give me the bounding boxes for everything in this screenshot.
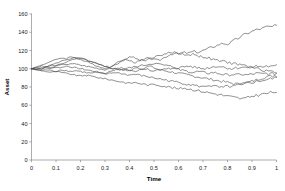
x-axis-title: Time <box>147 175 162 182</box>
y-axis-title: Asset <box>3 79 10 96</box>
y-tick-label: 0 <box>24 157 27 163</box>
x-axis-ticks: 00.10.20.30.40.50.60.70.80.91 <box>30 160 278 171</box>
series-line <box>32 52 277 73</box>
y-tick-label: 60 <box>21 102 27 108</box>
x-tick-label: 0.8 <box>224 165 232 171</box>
x-tick-label: 0 <box>30 165 33 171</box>
series-line <box>32 66 277 85</box>
y-tick-label: 80 <box>21 84 27 90</box>
x-tick-label: 0.4 <box>126 165 134 171</box>
x-tick-label: 0.2 <box>77 165 85 171</box>
y-tick-label: 140 <box>18 29 27 35</box>
y-axis-ticks: 020406080100120140160 <box>18 11 31 163</box>
x-tick-label: 1 <box>275 165 278 171</box>
y-tick-label: 120 <box>18 48 27 54</box>
y-tick-label: 20 <box>21 139 27 145</box>
asset-paths-line-chart: 020406080100120140160 00.10.20.30.40.50.… <box>0 0 285 191</box>
x-tick-label: 0.7 <box>199 165 207 171</box>
x-tick-label: 0.6 <box>175 165 183 171</box>
x-tick-label: 0.5 <box>150 165 158 171</box>
plot-axes: 020406080100120140160 00.10.20.30.40.50.… <box>18 11 278 171</box>
series-lines <box>32 25 277 99</box>
y-tick-label: 40 <box>21 121 27 127</box>
x-tick-label: 0.3 <box>101 165 109 171</box>
chart-figure: 020406080100120140160 00.10.20.30.40.50.… <box>0 0 285 191</box>
x-tick-label: 0.9 <box>248 165 256 171</box>
x-tick-label: 0.1 <box>52 165 60 171</box>
y-tick-label: 160 <box>18 11 27 17</box>
y-tick-label: 100 <box>18 66 27 72</box>
series-line <box>32 25 277 71</box>
